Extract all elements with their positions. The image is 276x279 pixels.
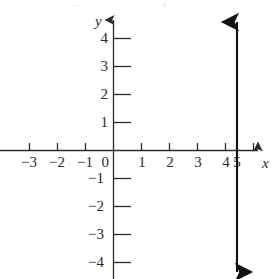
x-tick-label--2: −2 bbox=[46, 155, 68, 170]
x-tick-label--3: −3 bbox=[18, 155, 40, 170]
x-tick-label--1: −1 bbox=[74, 155, 96, 170]
y-tick-label--3: −3 bbox=[82, 227, 104, 242]
origin-label: 0 bbox=[95, 155, 109, 170]
y-tick-label--2: −2 bbox=[82, 199, 104, 214]
x-tick-label-3: 3 bbox=[187, 155, 209, 170]
coordinate-plane-figure: y 1 bbox=[0, 0, 276, 279]
x-tick-label-1: 1 bbox=[131, 155, 153, 170]
y-tick-label-4: 4 bbox=[86, 31, 108, 46]
y-tick-label-1: 1 bbox=[86, 115, 108, 130]
y-tick-label--1: −1 bbox=[82, 171, 104, 186]
x-tick-label-5: 5 bbox=[226, 155, 248, 170]
x-axis bbox=[0, 143, 258, 151]
graph-canvas bbox=[0, 0, 276, 279]
y-tick-label-3: 3 bbox=[86, 59, 108, 74]
y-tick-label-2: 2 bbox=[86, 87, 108, 102]
x-tick-label-2: 2 bbox=[159, 155, 181, 170]
y-axis-label: y bbox=[95, 14, 102, 29]
y-axis bbox=[114, 20, 132, 279]
x-axis-label: x bbox=[262, 156, 269, 171]
y-tick-label--4: −4 bbox=[82, 255, 104, 270]
x-axis-ticks bbox=[30, 143, 254, 151]
